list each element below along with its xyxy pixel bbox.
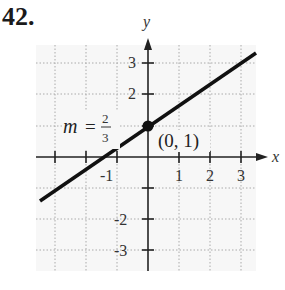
point-label: (0, 1)	[158, 130, 199, 152]
slope-numerator: 2	[102, 111, 109, 126]
y-tick-label: -3	[114, 242, 127, 259]
y-axis-arrow-icon	[144, 38, 152, 50]
x-axis-arrow-icon	[256, 153, 268, 161]
y-tick-label: 2	[128, 85, 136, 102]
x-tick-label: -1	[100, 167, 113, 184]
y-axis-label: y	[141, 13, 151, 31]
y-tick-label: -2	[114, 211, 127, 228]
grid-background	[36, 45, 256, 271]
slope-denominator: 3	[102, 130, 109, 145]
slope-equals: =	[85, 116, 96, 137]
x-tick-label: 2	[206, 167, 214, 184]
slope-variable: m	[63, 115, 77, 137]
x-tick-label: 3	[237, 167, 245, 184]
point-0-1	[143, 121, 154, 132]
coordinate-plane: -1 1 2 3 3 2 -2 -3 y x m = 2 3 (0, 1)	[0, 0, 285, 290]
y-tick-label: 3	[128, 54, 136, 71]
x-axis-label: x	[271, 148, 279, 165]
x-tick-label: 1	[175, 167, 183, 184]
